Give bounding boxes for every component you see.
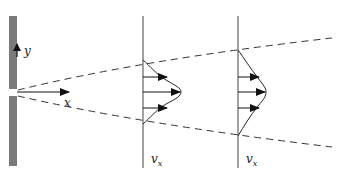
y-axis: y [17,44,31,58]
y-axis-label: y [23,44,31,58]
diffraction-diagram: y x vx vx [0,0,342,177]
profile-label-2: vx [246,152,258,168]
velocity-profile-2: vx [238,16,266,168]
x-axis-label: x [64,96,71,110]
wall-upper [9,16,17,89]
wall [9,16,17,166]
gaussian-curve-2 [238,50,266,136]
velocity-profile-1: vx [143,16,181,168]
profile-label-1: vx [151,152,163,168]
upper-envelope [18,38,332,90]
wall-lower [9,96,17,166]
x-axis: x [17,92,71,110]
